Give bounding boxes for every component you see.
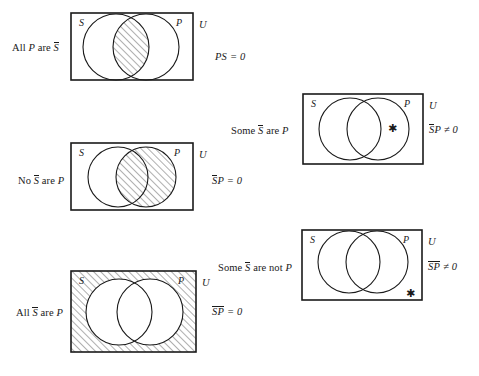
equation-label-2: SP = 0 xyxy=(212,175,242,187)
proposition-middle-2: are xyxy=(39,175,58,186)
proposition-label-1: All P are S xyxy=(12,42,59,54)
equation-label-1: PS = 0 xyxy=(215,52,245,63)
venn-box-1: S P xyxy=(70,12,194,81)
proposition-prefix-2: No xyxy=(18,175,34,186)
proposition-predicate-3: P xyxy=(56,307,63,318)
proposition-label-4: Some S are P xyxy=(231,125,289,137)
proposition-predicate-1: S xyxy=(54,42,59,54)
equation-left-overline-5: SP xyxy=(428,261,440,273)
proposition-label-2: No S are P xyxy=(18,175,64,187)
equation-left-overline-4: S xyxy=(429,124,434,136)
proposition-predicate-2: P xyxy=(58,175,65,186)
equation-right-2: 0 xyxy=(237,175,242,186)
circle-label-p-1: P xyxy=(175,17,182,28)
equation-right-4: 0 xyxy=(453,124,458,135)
proposition-subject-2: S xyxy=(34,175,39,187)
venn-svg-5: S P xyxy=(301,229,423,301)
proposition-label-5: Some S are not P xyxy=(218,262,292,274)
equation-relation-3: = xyxy=(224,306,237,317)
universe-label-5: U xyxy=(428,237,436,248)
venn-svg-2: S P xyxy=(70,142,194,211)
equation-label-5: SP ≠ 0 xyxy=(428,261,457,273)
venn-svg-4: S P xyxy=(302,93,424,165)
venn-box-3: S P xyxy=(70,270,197,353)
equation-left-1: PS xyxy=(215,51,227,62)
equation-relation-1: = xyxy=(227,51,240,62)
circle-label-p-3: P xyxy=(177,275,184,286)
circle-p-5 xyxy=(346,231,408,293)
equation-left-overline-3: SP xyxy=(212,306,224,318)
proposition-middle-3: are xyxy=(38,307,57,318)
circle-label-s-1: S xyxy=(79,17,84,28)
circle-label-p-5: P xyxy=(402,234,409,245)
equation-label-4: SP ≠ 0 xyxy=(429,124,458,136)
circle-label-p-2: P xyxy=(173,147,180,158)
equation-label-3: SP = 0 xyxy=(212,306,242,318)
proposition-subject-5: S xyxy=(245,262,250,274)
equation-relation-5: ≠ xyxy=(440,261,452,272)
equation-right-1: 0 xyxy=(240,51,245,62)
proposition-prefix-4: Some xyxy=(231,125,258,136)
proposition-prefix-3: All xyxy=(16,307,32,318)
venn-box-2: S P xyxy=(70,142,194,211)
venn-box-4: S P xyxy=(302,93,424,165)
equation-right-5: 0 xyxy=(452,261,457,272)
proposition-prefix-1: All xyxy=(12,42,28,53)
circle-label-p-4: P xyxy=(403,98,410,109)
equation-relation-2: = xyxy=(224,175,237,186)
equation-relation-4: ≠ xyxy=(441,124,453,135)
proposition-middle-1: are xyxy=(35,42,54,53)
circle-s-5 xyxy=(318,231,380,293)
proposition-middle-4: are xyxy=(263,125,282,136)
circle-label-s-3: S xyxy=(79,275,84,286)
equation-left-overline-2: S xyxy=(212,175,217,187)
proposition-predicate-4: P xyxy=(282,125,289,136)
proposition-prefix-5: Some xyxy=(218,262,245,273)
proposition-predicate-5: P xyxy=(285,262,292,273)
venn-box-5: S P xyxy=(301,229,423,301)
universe-label-4: U xyxy=(429,101,437,112)
proposition-subject-4: S xyxy=(258,125,263,137)
circle-s-4 xyxy=(319,98,381,160)
existence-star-5: ✱ xyxy=(406,288,415,299)
circle-label-s-5: S xyxy=(310,234,315,245)
equation-right-3: 0 xyxy=(237,306,242,317)
universe-label-2: U xyxy=(199,150,207,161)
circle-p-4 xyxy=(347,98,409,160)
universe-label-1: U xyxy=(199,20,207,31)
proposition-subject-3: S xyxy=(32,307,37,319)
proposition-middle-5: are not xyxy=(250,262,285,273)
venn-svg-3: S P xyxy=(70,270,197,353)
existence-star-4: ✱ xyxy=(388,123,397,134)
circle-label-s-2: S xyxy=(79,147,84,158)
venn-diagram-figure-page: { "figure": { "title": "Venn diagrams fo… xyxy=(0,0,479,376)
universe-label-3: U xyxy=(202,278,210,289)
proposition-label-3: All S are P xyxy=(16,307,63,319)
venn-svg-1: S P xyxy=(70,12,194,81)
circle-label-s-4: S xyxy=(311,98,316,109)
